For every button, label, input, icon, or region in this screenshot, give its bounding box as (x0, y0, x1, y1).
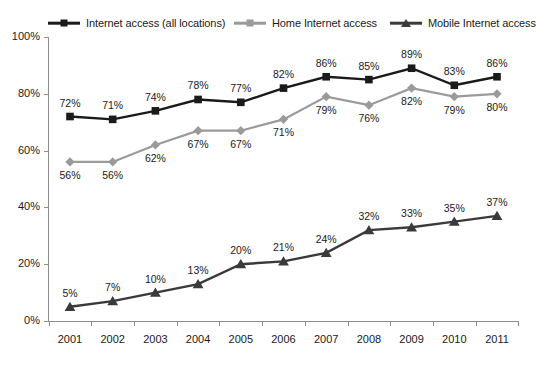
data-point-label: 35% (434, 203, 474, 214)
data-point-marker[interactable] (194, 126, 203, 135)
data-point-label: 82% (392, 96, 432, 107)
data-point-marker[interactable] (108, 157, 117, 166)
data-point-label: 32% (349, 211, 389, 222)
data-point-label: 83% (434, 66, 474, 77)
data-point-label: 77% (221, 83, 261, 94)
data-point-marker[interactable] (279, 115, 288, 124)
data-point-label: 37% (477, 197, 517, 208)
data-point-label: 21% (264, 242, 304, 253)
data-point-label: 7% (93, 282, 133, 293)
data-point-marker[interactable] (407, 84, 416, 93)
data-point-marker[interactable] (322, 92, 331, 101)
data-point-marker[interactable] (451, 81, 459, 89)
data-point-marker[interactable] (151, 140, 160, 149)
data-point-label: 62% (135, 153, 175, 164)
data-point-label: 76% (349, 113, 389, 124)
data-point-label: 85% (349, 61, 389, 72)
data-point-marker[interactable] (194, 96, 202, 104)
data-point-label: 56% (50, 170, 90, 181)
data-point-label: 79% (306, 105, 346, 116)
data-point-label: 10% (135, 274, 175, 285)
data-point-marker[interactable] (65, 157, 74, 166)
data-point-label: 86% (306, 58, 346, 69)
data-point-marker[interactable] (237, 99, 245, 107)
data-point-marker[interactable] (236, 126, 245, 135)
data-point-marker[interactable] (450, 92, 459, 101)
data-point-label: 72% (50, 98, 90, 109)
data-point-label: 33% (392, 208, 432, 219)
data-point-label: 86% (477, 58, 517, 69)
data-point-label: 56% (93, 170, 133, 181)
data-point-marker[interactable] (408, 64, 416, 72)
data-point-label: 78% (178, 80, 218, 91)
data-point-label: 13% (178, 265, 218, 276)
series-line (70, 88, 497, 162)
data-point-label: 71% (264, 127, 304, 138)
data-point-marker[interactable] (280, 84, 288, 92)
data-point-label: 79% (434, 105, 474, 116)
data-point-label: 24% (306, 234, 346, 245)
data-point-label: 71% (93, 100, 133, 111)
data-point-marker[interactable] (493, 73, 501, 81)
data-point-marker[interactable] (322, 73, 330, 81)
data-point-marker[interactable] (492, 89, 501, 98)
data-point-label: 5% (50, 288, 90, 299)
data-point-label: 89% (392, 49, 432, 60)
data-point-marker[interactable] (364, 101, 373, 110)
data-point-label: 67% (221, 139, 261, 150)
data-point-marker[interactable] (66, 113, 74, 121)
data-point-label: 20% (221, 245, 261, 256)
data-point-marker[interactable] (365, 76, 373, 84)
data-point-label: 67% (178, 139, 218, 150)
data-point-label: 82% (264, 69, 304, 80)
data-point-marker[interactable] (321, 248, 332, 257)
data-point-marker[interactable] (109, 116, 117, 124)
data-point-label: 74% (135, 92, 175, 103)
data-point-label: 80% (477, 102, 517, 113)
data-point-marker[interactable] (152, 107, 160, 115)
